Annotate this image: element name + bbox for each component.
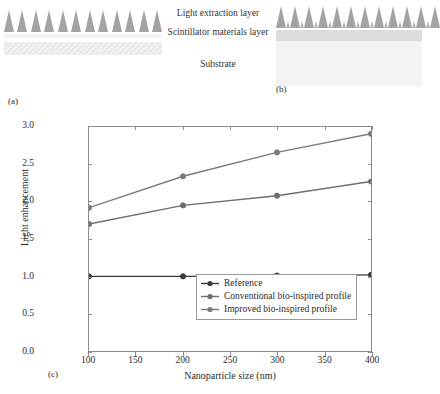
- x-tick-mark: [88, 126, 89, 130]
- data-point: [89, 221, 92, 226]
- data-point: [180, 274, 185, 279]
- x-tick-mark: [277, 352, 278, 356]
- legend-label: Reference: [224, 278, 263, 289]
- spike-group: [276, 6, 290, 28]
- spike-group: [402, 6, 416, 28]
- panel-tag-c: (c): [48, 369, 58, 379]
- schematic-panels: Light extraction layer Scintillator mate…: [0, 0, 426, 112]
- x-tick-mark: [88, 352, 89, 356]
- x-axis-label: Nanoparticle size (nm): [88, 370, 372, 381]
- x-tick-mark: [135, 126, 136, 130]
- x-tick-label: 400: [352, 355, 392, 365]
- triangle-icon: [98, 10, 108, 32]
- panel-a-scintillator-band: [4, 34, 162, 38]
- y-tick-mark: [368, 164, 372, 165]
- layer-label-group: Light extraction layer Scintillator mate…: [158, 4, 278, 90]
- legend-item-2[interactable]: Improved bio-inspired profile: [200, 303, 351, 316]
- data-point: [368, 131, 371, 136]
- spike-group: [318, 6, 332, 28]
- x-tick-mark: [183, 126, 184, 130]
- y-tick-label: 1.5: [0, 233, 34, 243]
- legend-marker-icon: [200, 304, 220, 315]
- spike-group: [332, 6, 346, 28]
- y-tick-mark: [88, 314, 92, 315]
- spike-group: [71, 10, 81, 32]
- series-1: [89, 179, 371, 227]
- triangle-icon: [416, 6, 426, 28]
- data-point: [368, 179, 371, 184]
- triangle-icon: [125, 10, 135, 32]
- y-tick-label: 0.5: [0, 308, 34, 318]
- triangle-icon: [346, 6, 356, 28]
- triangle-icon: [374, 6, 384, 28]
- spike-group: [346, 6, 360, 28]
- y-tick-mark: [88, 239, 92, 240]
- panel-a-substrate-band: [4, 42, 162, 55]
- data-point: [274, 193, 279, 198]
- x-tick-mark: [325, 352, 326, 356]
- data-point: [180, 203, 185, 208]
- label-scintillator-materials-layer: Scintillator materials layer: [158, 28, 278, 38]
- triangle-icon: [402, 6, 412, 28]
- triangle-icon: [44, 10, 54, 32]
- chart-panel-c: Light enhancement 0.00.51.01.52.02.53.01…: [0, 110, 426, 394]
- y-tick-label: 1.0: [0, 271, 34, 281]
- legend-marker-icon: [200, 278, 220, 289]
- spike-group: [374, 6, 388, 28]
- legend-marker-icon: [200, 291, 220, 302]
- spike-group: [139, 10, 149, 32]
- series-line: [89, 134, 371, 208]
- spike-group: [290, 6, 304, 28]
- y-tick-mark: [368, 239, 372, 240]
- legend-item-0[interactable]: Reference: [200, 277, 351, 290]
- panel-b-spike-row: [276, 4, 422, 28]
- x-tick-mark: [183, 352, 184, 356]
- spike-group: [17, 10, 27, 32]
- triangle-icon: [139, 10, 149, 32]
- spike-group: [388, 6, 402, 28]
- triangle-icon: [360, 6, 370, 28]
- x-tick-mark: [277, 126, 278, 130]
- spike-group: [58, 10, 68, 32]
- x-tick-mark: [325, 126, 326, 130]
- y-tick-label: 2.5: [0, 158, 34, 168]
- legend-label: Conventional bio-inspired profile: [224, 291, 351, 302]
- data-point: [180, 174, 185, 179]
- spike-group: [85, 10, 95, 32]
- legend-item-1[interactable]: Conventional bio-inspired profile: [200, 290, 351, 303]
- spike-group: [416, 6, 430, 28]
- x-tick-label: 100: [68, 355, 108, 365]
- y-tick-mark: [88, 201, 92, 202]
- x-tick-mark: [135, 352, 136, 356]
- x-tick-mark: [230, 352, 231, 356]
- triangle-icon: [388, 6, 398, 28]
- spike-group: [125, 10, 135, 32]
- spike-group: [112, 10, 122, 32]
- panel-b-scintillator-band: [276, 30, 422, 41]
- series-2: [89, 131, 371, 210]
- y-tick-mark: [368, 277, 372, 278]
- data-point: [274, 150, 279, 155]
- triangle-icon: [4, 10, 14, 32]
- label-substrate: Substrate: [158, 60, 278, 70]
- x-tick-label: 250: [210, 355, 250, 365]
- y-tick-label: 0.0: [0, 346, 34, 356]
- x-tick-mark: [372, 126, 373, 130]
- triangle-icon: [58, 10, 68, 32]
- schematic-panel-a: [4, 8, 162, 94]
- x-tick-mark: [372, 352, 373, 356]
- data-point: [89, 205, 92, 210]
- spike-group: [31, 10, 41, 32]
- spike-group: [98, 10, 108, 32]
- spike-group: [44, 10, 54, 32]
- x-tick-label: 300: [257, 355, 297, 365]
- panel-tag-a: (a): [8, 96, 18, 106]
- triangle-icon: [430, 6, 440, 28]
- x-tick-label: 350: [305, 355, 345, 365]
- triangle-icon: [290, 6, 300, 28]
- y-tick-mark: [368, 201, 372, 202]
- x-tick-mark: [230, 126, 231, 130]
- panel-a-spike-row: [4, 8, 162, 32]
- y-tick-mark: [368, 314, 372, 315]
- x-tick-label: 150: [115, 355, 155, 365]
